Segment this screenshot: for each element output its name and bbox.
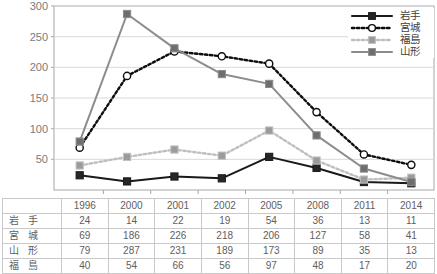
data-point-marker [313,164,320,171]
table-cell: 24 [62,214,109,229]
legend-item-label: 宮城 [400,21,421,33]
data-point-marker [266,80,273,87]
data-point-marker [76,138,83,145]
legend-item-label: 岩手 [400,9,420,21]
table-row-label: 福 島 [3,259,62,274]
table-cell: 189 [201,244,248,259]
data-point-marker [266,60,273,67]
table-cell: 127 [295,229,342,244]
table-row: 山 形 79 287 231 189 173 89 35 13 [3,244,435,259]
table-cell: 35 [341,244,388,259]
table-col-header: 1996 [62,199,109,214]
data-point-marker [313,157,320,164]
table-cell: 13 [341,214,388,229]
table-cell: 206 [248,229,295,244]
table-cell: 186 [108,229,155,244]
data-point-marker [76,162,83,169]
table-cell: 19 [201,214,248,229]
chart-canvas: 50100150200250300岩手宮城福島山形 [0,0,437,198]
y-axis-tick-label: 300 [30,0,48,12]
data-point-marker [76,172,83,179]
legend-marker-swatch [369,13,376,20]
data-point-marker [171,146,178,153]
data-point-marker [408,161,415,168]
table-cell: 48 [295,259,342,274]
table-row: 福 島 40 54 66 56 97 48 17 20 [3,259,435,274]
table-col-header: 2000 [108,199,155,214]
table-row-label: 山 形 [3,244,62,259]
data-point-marker [218,53,225,60]
data-point-marker [313,132,320,139]
table-col-header: 2002 [201,199,248,214]
data-point-marker [313,109,320,116]
table-row-label: 岩 手 [3,214,62,229]
table-cell: 56 [201,259,248,274]
data-point-marker [218,70,225,77]
table-cell: 14 [108,214,155,229]
table-cell: 40 [62,259,109,274]
data-table: 1996 2000 2001 2002 2005 2008 2011 2014 … [2,198,435,274]
table-cell: 66 [155,259,202,274]
data-point-marker [408,178,415,185]
data-point-marker [360,176,367,183]
table-cell: 20 [388,259,435,274]
legend: 岩手宮城福島山形 [348,8,434,58]
table-cell: 69 [62,229,109,244]
table-cell: 226 [155,229,202,244]
y-axis-tick-label: 100 [30,123,48,135]
table-row-label: 宮 城 [3,229,62,244]
table-cell: 22 [155,214,202,229]
data-point-marker [218,175,225,182]
table-body: 岩 手 24 14 22 19 54 36 13 11 宮 城 69 186 2… [3,214,435,274]
table-row: 宮 城 69 186 226 218 206 127 58 41 [3,229,435,244]
table-cell: 36 [295,214,342,229]
data-point-marker [266,153,273,160]
table-corner-cell [3,199,62,214]
data-point-marker [171,173,178,180]
data-point-marker [171,45,178,52]
table-cell: 287 [108,244,155,259]
data-point-marker [123,72,130,79]
legend-marker-swatch [369,37,376,44]
line-chart: 50100150200250300岩手宮城福島山形 [0,0,437,198]
table-col-header: 2014 [388,199,435,214]
table-cell: 17 [341,259,388,274]
y-axis-tick-label: 200 [30,61,48,73]
y-axis-tick-label: 250 [30,31,48,43]
legend-marker-swatch [369,25,376,32]
table-row: 岩 手 24 14 22 19 54 36 13 11 [3,214,435,229]
data-point-marker [266,127,273,134]
data-point-marker [123,153,130,160]
table-col-header: 2011 [341,199,388,214]
data-point-marker [218,152,225,159]
table-cell: 11 [388,214,435,229]
data-point-marker [360,165,367,172]
table-col-header: 2001 [155,199,202,214]
data-point-marker [123,178,130,185]
y-axis-tick-label: 150 [30,92,48,104]
table-cell: 54 [108,259,155,274]
table-col-header: 2008 [295,199,342,214]
table-col-header: 2005 [248,199,295,214]
data-point-marker [123,10,130,17]
table-cell: 97 [248,259,295,274]
table-header-row: 1996 2000 2001 2002 2005 2008 2011 2014 [3,199,435,214]
table-cell: 13 [388,244,435,259]
table-cell: 218 [201,229,248,244]
table-cell: 231 [155,244,202,259]
table-cell: 54 [248,214,295,229]
data-point-marker [360,151,367,158]
y-axis-tick-label: 50 [36,153,48,165]
table-cell: 89 [295,244,342,259]
table-header: 1996 2000 2001 2002 2005 2008 2011 2014 [3,199,435,214]
table-cell: 79 [62,244,109,259]
table-cell: 58 [341,229,388,244]
legend-item-label: 福島 [400,33,420,45]
table-cell: 41 [388,229,435,244]
legend-marker-swatch [369,49,376,56]
table-cell: 173 [248,244,295,259]
legend-item-label: 山形 [400,45,421,57]
